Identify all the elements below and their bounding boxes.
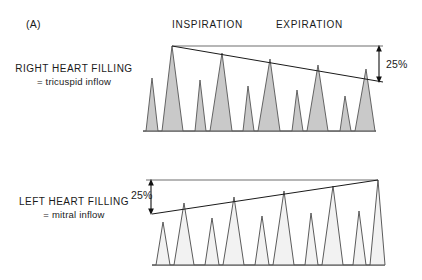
waveform-svg	[0, 0, 422, 280]
left-heart-waveform	[152, 180, 385, 265]
top-tracing-group	[143, 46, 383, 131]
top-envelope-line	[172, 46, 383, 82]
figure-container: (A) INSPIRATION EXPIRATION RIGHT HEART F…	[0, 0, 422, 280]
right-heart-waveform	[143, 46, 376, 131]
bottom-tracing-group	[146, 180, 385, 265]
bottom-envelope-line	[152, 180, 378, 214]
